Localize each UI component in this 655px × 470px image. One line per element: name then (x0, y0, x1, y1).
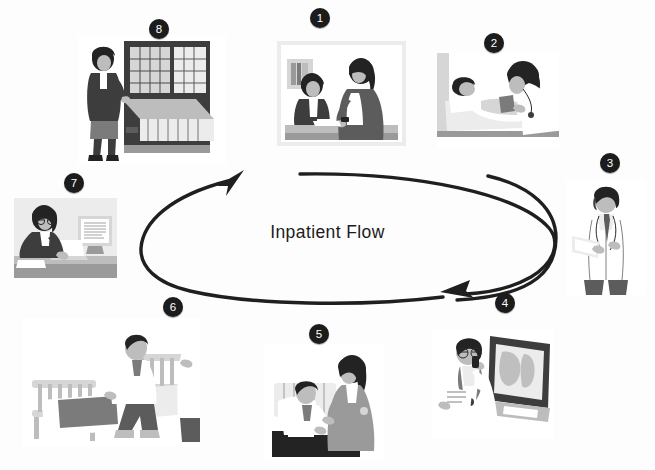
scene-discharge (22, 318, 200, 446)
scene-billing-data-entry (14, 198, 117, 278)
arrowhead-bottom (440, 280, 474, 298)
scene-medical-records-filing (78, 35, 226, 165)
arrowhead-top (217, 170, 244, 196)
step-badge-6[interactable]: 6 (163, 297, 183, 317)
scene-initial-assessment (437, 53, 559, 148)
inpatient-flow-diagram: Inpatient Flow (0, 0, 655, 470)
step-badge-7[interactable]: 7 (64, 173, 84, 193)
step-badge-1[interactable]: 1 (310, 8, 330, 28)
step-badge-4[interactable]: 4 (495, 293, 515, 313)
step-badge-3[interactable]: 3 (600, 153, 620, 173)
scene-admission-registration (277, 41, 406, 146)
step-badge-5[interactable]: 5 (309, 324, 329, 344)
scene-nursing-care (264, 345, 384, 460)
step-badge-8[interactable]: 8 (149, 19, 169, 39)
step-badge-2[interactable]: 2 (484, 33, 504, 53)
scene-physician-review (566, 180, 646, 295)
scene-diagnostic-imaging (432, 330, 554, 438)
